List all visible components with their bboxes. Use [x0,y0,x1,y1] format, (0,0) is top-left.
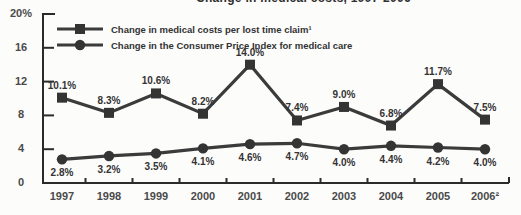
data-point-label: 11.7% [424,66,452,77]
x-tick-label: 2006² [471,190,499,202]
chart-legend: Change in medical costs per lost time cl… [57,22,352,52]
data-point-label: 3.5% [145,161,168,172]
x-tick-label: 2002 [285,190,309,202]
x-tick-label: 2005 [426,190,450,202]
data-point-label: 3.2% [98,164,121,175]
data-point-marker [57,154,67,164]
data-point-label: 4.1% [192,156,215,167]
series-line-cpi [62,143,485,159]
x-tick-label: 1998 [97,190,121,202]
legend-item-cpi: Change in the Consumer Price Index for m… [57,38,352,52]
x-tick-label: 2001 [238,190,262,202]
data-point-marker [386,141,396,151]
data-point-marker [433,79,443,89]
y-tick-label: 12 [15,75,27,87]
data-point-label: 4.0% [474,157,497,168]
data-point-marker [339,102,349,112]
data-point-label: 4.4% [380,154,403,165]
x-tick-label: 1999 [144,190,168,202]
data-point-marker [245,60,255,70]
data-point-label: 10.6% [142,75,170,86]
data-point-label: 4.2% [427,156,450,167]
data-point-marker [198,143,208,153]
data-point-marker [104,151,114,161]
data-point-marker [198,109,208,119]
y-tick-label: 8 [18,108,24,120]
data-point-marker [480,115,490,125]
data-point-marker [292,138,302,148]
square-marker-icon [57,23,103,35]
circle-marker-icon [57,39,103,51]
y-tick-label: 4 [18,142,25,154]
data-point-marker [292,115,302,125]
legend-label-medical-costs: Change in medical costs per lost time cl… [111,24,312,35]
data-point-label: 4.0% [333,157,356,168]
data-point-marker [480,144,490,154]
data-point-label: 9.0% [333,89,356,100]
x-tick-label: 2000 [191,190,215,202]
legend-label-cpi: Change in the Consumer Price Index for m… [111,40,352,51]
y-tick-label: 20% [10,7,32,19]
y-tick-label: 0 [18,176,24,188]
data-point-label: 8.3% [98,95,121,106]
data-point-label: 7.5% [474,102,497,113]
line-chart: Change in medical costs, 1997-2006 04812… [0,0,521,215]
data-point-marker [57,93,67,103]
data-point-marker [151,148,161,158]
data-point-label: 2.8% [51,167,74,178]
x-tick-label: 2003 [332,190,356,202]
data-point-marker [339,144,349,154]
y-tick-label: 16 [15,41,27,53]
data-point-marker [433,142,443,152]
data-point-marker [386,121,396,131]
data-point-label: 8.2% [192,96,215,107]
data-point-label: 4.7% [286,151,309,162]
x-tick-label: 2004 [379,190,404,202]
data-point-marker [104,108,114,118]
series-line-medical-costs [62,65,485,126]
data-point-marker [151,88,161,98]
data-point-label: 4.6% [239,152,262,163]
data-point-marker [245,139,255,149]
data-point-label: 7.4% [286,102,309,113]
legend-item-medical-costs: Change in medical costs per lost time cl… [57,22,352,36]
x-tick-label: 1997 [50,190,74,202]
data-point-label: 10.1% [48,80,76,91]
data-point-label: 6.8% [380,108,403,119]
